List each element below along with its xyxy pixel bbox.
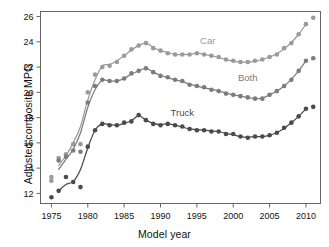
- data-point: [100, 122, 105, 127]
- data-point: [245, 95, 250, 100]
- data-point: [282, 46, 287, 51]
- data-point: [158, 48, 163, 53]
- series-truck: Truck: [49, 105, 315, 200]
- data-point: [115, 60, 120, 65]
- x-tick-label: 2005: [260, 211, 280, 221]
- data-point: [165, 122, 170, 127]
- x-tick-label: 1985: [114, 211, 134, 221]
- data-point: [231, 58, 236, 63]
- data-point: [165, 75, 170, 80]
- data-point: [136, 69, 141, 74]
- data-point: [136, 113, 141, 118]
- data-point: [180, 79, 185, 84]
- x-tick-label: 2010: [296, 211, 316, 221]
- data-point: [100, 65, 105, 70]
- data-point: [253, 96, 258, 101]
- series-label-both: Both: [238, 72, 258, 83]
- data-point: [260, 96, 265, 101]
- data-point: [202, 52, 207, 57]
- data-point: [238, 134, 243, 139]
- data-point: [209, 88, 214, 93]
- data-point: [238, 60, 243, 65]
- y-axis-title: Adjusted composite MPG: [22, 44, 34, 204]
- data-point: [195, 84, 200, 89]
- data-point: [56, 158, 61, 163]
- data-point: [151, 70, 156, 75]
- data-point: [195, 128, 200, 133]
- data-point: [122, 120, 127, 125]
- data-point: [93, 84, 98, 89]
- data-point: [260, 134, 265, 139]
- data-point: [231, 132, 236, 137]
- data-point: [107, 79, 112, 84]
- data-point: [85, 90, 90, 95]
- data-point: [64, 175, 69, 180]
- data-point: [231, 93, 236, 98]
- data-point: [187, 82, 192, 87]
- data-point: [282, 125, 287, 130]
- data-point: [289, 41, 294, 46]
- data-point: [216, 89, 221, 94]
- data-point: [144, 41, 149, 46]
- data-point: [304, 58, 309, 63]
- data-point: [224, 91, 229, 96]
- chart-canvas: 1214161820222426197519801985199019952000…: [0, 0, 329, 247]
- series-car: Car: [49, 16, 315, 184]
- data-point: [238, 94, 243, 99]
- data-point: [267, 93, 272, 98]
- data-point: [267, 133, 272, 138]
- data-point: [275, 130, 280, 135]
- data-point: [209, 53, 214, 58]
- data-point: [180, 124, 185, 129]
- x-axis-title: Model year: [0, 228, 329, 240]
- data-point: [180, 52, 185, 57]
- data-point: [71, 148, 76, 153]
- data-point: [311, 105, 316, 110]
- data-point: [224, 57, 229, 62]
- data-point: [173, 123, 178, 128]
- data-point: [49, 178, 54, 183]
- data-point: [260, 57, 265, 62]
- data-point: [93, 128, 98, 133]
- data-point: [311, 56, 316, 61]
- data-point: [296, 32, 301, 37]
- data-point: [122, 53, 127, 58]
- data-point: [122, 76, 127, 81]
- y-tick-label: 26: [23, 12, 33, 22]
- x-tick-label: 2000: [223, 211, 243, 221]
- data-point: [78, 185, 83, 190]
- data-point: [173, 77, 178, 82]
- data-point: [304, 22, 309, 27]
- data-point: [115, 123, 120, 128]
- data-point: [216, 55, 221, 60]
- data-point: [151, 122, 156, 127]
- data-point: [253, 58, 258, 63]
- x-tick-label: 1990: [150, 211, 170, 221]
- x-tick-label: 1975: [41, 211, 61, 221]
- data-point: [56, 189, 61, 194]
- data-point: [289, 120, 294, 125]
- data-point: [224, 132, 229, 137]
- data-point: [245, 60, 250, 65]
- data-point: [136, 43, 141, 48]
- data-point: [304, 106, 309, 111]
- data-point: [115, 79, 120, 84]
- data-point: [296, 69, 301, 74]
- data-point: [144, 118, 149, 123]
- data-point: [85, 144, 90, 149]
- data-point: [275, 52, 280, 57]
- data-point: [216, 129, 221, 134]
- data-point: [64, 154, 69, 159]
- data-point: [107, 123, 112, 128]
- mpg-by-model-year-figure: 1214161820222426197519801985199019952000…: [0, 0, 329, 247]
- data-point: [107, 64, 112, 69]
- data-point: [311, 16, 316, 21]
- data-point: [202, 85, 207, 90]
- data-point: [85, 100, 90, 105]
- data-point: [296, 114, 301, 119]
- data-point: [209, 129, 214, 134]
- data-point: [282, 84, 287, 89]
- data-point: [129, 71, 134, 76]
- data-point: [129, 47, 134, 52]
- data-point: [78, 142, 83, 147]
